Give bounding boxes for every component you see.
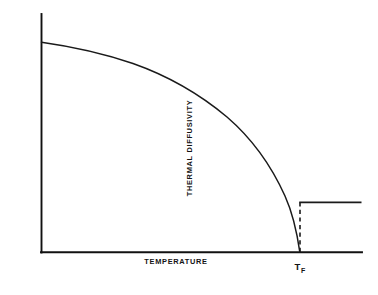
y-axis-label-text: THERMAL DIFFUSIVITY [185, 99, 194, 196]
figure-container: THERMAL DIFFUSIVITY TEMPERATURE TF [0, 0, 378, 295]
tf-axis-marker: TF [295, 257, 306, 274]
thermal-diffusivity-curve [42, 42, 300, 252]
tf-subscript-letter: F [301, 267, 305, 274]
x-axis-label: TEMPERATURE [144, 258, 207, 265]
